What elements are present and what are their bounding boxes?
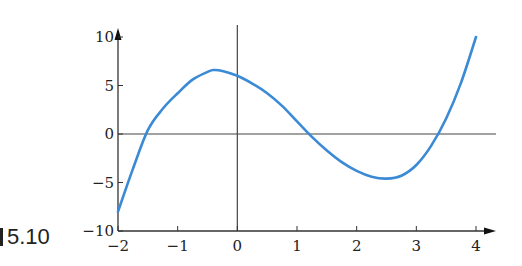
x-tick-label: 2: [352, 237, 362, 255]
cubic-function-chart: −2−101234−10−50510: [0, 0, 522, 266]
y-tick-label: 0: [104, 125, 114, 143]
y-tick-label: −5: [92, 174, 114, 192]
y-tick-label: 5: [104, 77, 114, 95]
y-tick-label: −10: [82, 222, 114, 240]
x-tick-label: −1: [167, 237, 189, 255]
x-tick-label: 1: [292, 237, 302, 255]
y-axis-arrow-icon: [115, 28, 122, 40]
function-curve: [118, 37, 476, 212]
x-tick-label: 0: [233, 237, 243, 255]
x-axis-arrow-icon: [484, 228, 496, 235]
y-tick-label: 10: [95, 28, 114, 46]
x-tick-label: 3: [412, 237, 422, 255]
x-tick-label: 4: [471, 237, 481, 255]
